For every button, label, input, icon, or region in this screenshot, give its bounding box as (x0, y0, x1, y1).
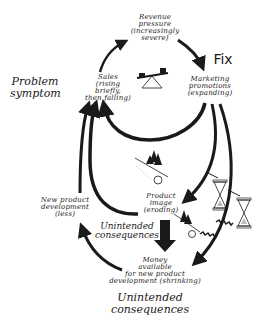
node-product-image: Product image (eroding) (136, 193, 186, 214)
arrow-newdev-to-sales (80, 106, 88, 193)
delay-mark (206, 172, 218, 178)
fixes-that-fail-diagram: Revenue pressure (increasingly severe) F… (0, 0, 265, 327)
node-money-available: Money available for new product developm… (100, 257, 210, 285)
node-marketing-promotions: Marketing promotions (expanding) (180, 76, 240, 97)
hourglass-icon (237, 198, 251, 228)
delay-zigzag-icon (216, 220, 233, 225)
label-unintended-consequences-middle: Unintended consequences (94, 222, 160, 241)
node-sales: Sales (rising briefly, then falling) (82, 74, 134, 102)
arrow-product-image-to-sales (90, 106, 138, 214)
node-new-product-development: New product development (less) (38, 197, 92, 218)
label-unintended-consequences-bottom: Unintended consequences (110, 292, 190, 315)
snowball-tree-icon-2 (174, 210, 200, 238)
snowball-tree-icon (135, 150, 168, 184)
arrow-revenue-to-marketing (178, 40, 202, 66)
arrow-marketing-to-product-image (186, 104, 215, 200)
label-fix: Fix (208, 52, 238, 66)
arrow-sales-to-revenue (100, 42, 124, 72)
label-problem-symptom: Problem symptom (10, 76, 60, 99)
node-revenue-pressure: Revenue pressure (increasingly severe) (125, 14, 185, 42)
hourglass-icon (213, 180, 227, 210)
balance-seesaw-icon (137, 68, 168, 88)
delay-zigzag-icon (200, 232, 217, 237)
arrow-marketing-to-sales (104, 103, 205, 140)
